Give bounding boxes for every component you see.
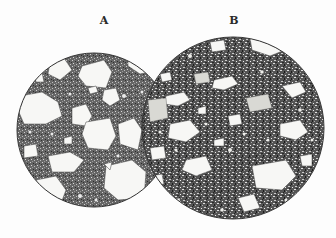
thin-section-illustration: [0, 0, 336, 238]
thin-section-figure: A B: [0, 0, 336, 238]
